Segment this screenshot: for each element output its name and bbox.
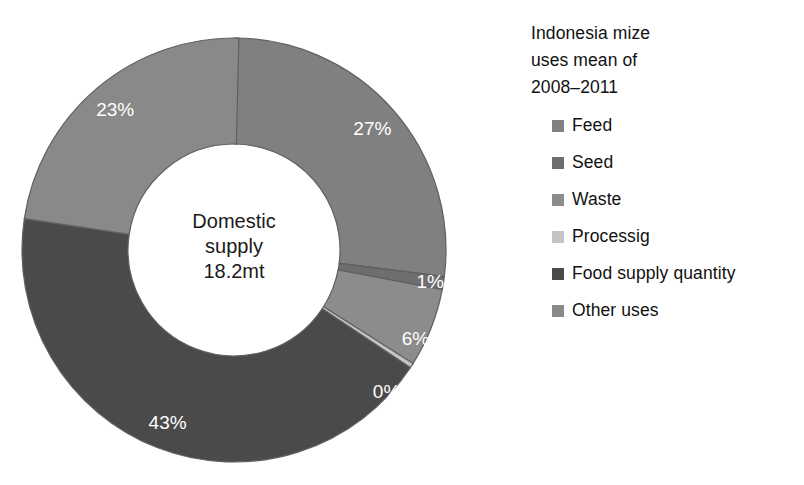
legend-item-label: Other uses xyxy=(572,300,659,321)
donut-chart: Domestic supply 18.2mt 27%1%6%0%43%23% xyxy=(0,0,500,485)
center-label-line-3: 18.2mt xyxy=(203,260,265,282)
legend-item-label: Food supply quantity xyxy=(572,263,736,284)
donut-slice-feed[interactable] xyxy=(234,38,446,277)
donut-chart-svg: Domestic supply 18.2mt 27%1%6%0%43%23% xyxy=(0,0,500,485)
legend-item-other-uses[interactable]: Other uses xyxy=(531,292,804,329)
legend-item-label: Feed xyxy=(572,115,612,136)
legend-swatch-icon xyxy=(552,157,564,169)
chart-legend: Indonesia mize uses mean of 2008–2011 Fe… xyxy=(531,20,804,329)
slice-label-waste: 6% xyxy=(402,328,430,349)
legend-swatch-icon xyxy=(552,305,564,317)
legend-item-list: FeedSeedWasteProcessigFood supply quanti… xyxy=(531,107,804,329)
legend-item-processig[interactable]: Processig xyxy=(531,218,804,255)
legend-item-label: Processig xyxy=(572,226,650,247)
slice-label-processig: 0% xyxy=(373,381,401,402)
legend-item-label: Waste xyxy=(572,189,621,210)
donut-center-label: Domestic supply 18.2mt xyxy=(192,210,275,282)
legend-item-seed[interactable]: Seed xyxy=(531,144,804,181)
legend-item-label: Seed xyxy=(572,152,613,173)
legend-swatch-icon xyxy=(552,120,564,132)
legend-item-food-supply-quantity[interactable]: Food supply quantity xyxy=(531,255,804,292)
slice-label-feed: 27% xyxy=(353,118,391,139)
legend-item-waste[interactable]: Waste xyxy=(531,181,804,218)
legend-item-feed[interactable]: Feed xyxy=(531,107,804,144)
slice-label-food-supply-quantity: 43% xyxy=(149,412,187,433)
center-label-line-1: Domestic xyxy=(192,210,275,232)
donut-slice-other-uses[interactable] xyxy=(24,38,238,234)
legend-title: Indonesia mize uses mean of 2008–2011 xyxy=(531,20,804,101)
chart-page: Domestic supply 18.2mt 27%1%6%0%43%23% I… xyxy=(0,0,804,485)
legend-swatch-icon xyxy=(552,268,564,280)
legend-swatch-icon xyxy=(552,231,564,243)
legend-swatch-icon xyxy=(552,194,564,206)
slice-label-seed: 1% xyxy=(416,271,444,292)
slice-label-other-uses: 23% xyxy=(96,99,134,120)
center-label-line-2: supply xyxy=(205,235,263,257)
